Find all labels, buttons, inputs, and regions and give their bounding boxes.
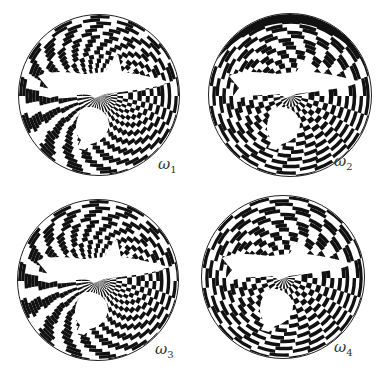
checkerboard-disk-w1	[18, 14, 180, 176]
checkerboard-disk-w3	[17, 199, 179, 361]
panel-label-w1: ω1	[158, 155, 177, 175]
panel-label-w2: ω2	[334, 152, 353, 172]
panel-label-w3: ω3	[155, 340, 174, 360]
fish-silhouette	[267, 107, 300, 150]
checkerboard-disk-w4	[201, 195, 365, 359]
panel-label-w4: ω4	[334, 338, 353, 358]
fish-silhouette	[260, 289, 293, 332]
